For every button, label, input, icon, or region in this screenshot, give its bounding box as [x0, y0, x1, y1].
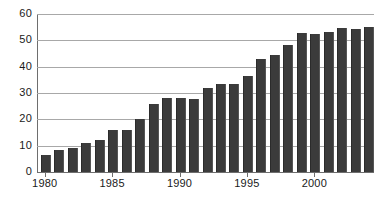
bar-1992 [203, 88, 213, 172]
bar-1987 [135, 119, 145, 172]
y-tick-label-20: 20 [8, 113, 32, 124]
bar-1986 [122, 130, 132, 172]
bar-1988 [149, 104, 159, 172]
y-tick-label-50: 50 [8, 34, 32, 45]
x-tick-label-1995: 1995 [234, 177, 259, 190]
x-tick-label-1990: 1990 [167, 177, 192, 190]
y-tick-label-60: 60 [8, 8, 32, 19]
bar-2001 [324, 32, 334, 172]
y-tick-label-40: 40 [8, 61, 32, 72]
bar-1985 [108, 130, 118, 172]
bar-1996 [256, 59, 266, 172]
bar-1994 [229, 84, 239, 172]
x-axis-labels: 19801985199019952000 [0, 177, 385, 197]
x-tick-label-2000: 2000 [302, 177, 327, 190]
bar-1999 [297, 33, 307, 172]
bar-1997 [270, 55, 280, 172]
bar-1980 [41, 155, 51, 172]
bar-1984 [95, 140, 105, 172]
bar-1989 [162, 98, 172, 172]
bar-2004 [364, 27, 374, 172]
y-tick-label-30: 30 [8, 87, 32, 98]
bar-chart: 6050403020100 19801985199019952000 [0, 0, 385, 203]
x-tick-label-1980: 1980 [32, 177, 57, 190]
bar-1993 [216, 84, 226, 172]
bars-layer [37, 14, 374, 172]
bar-1983 [81, 143, 91, 172]
bar-1995 [243, 76, 253, 172]
bar-1998 [283, 45, 293, 172]
bar-1981 [54, 150, 64, 172]
y-tick-label-10: 10 [8, 140, 32, 151]
x-tick-label-1985: 1985 [99, 177, 124, 190]
bar-1990 [176, 98, 186, 172]
bar-2002 [337, 28, 347, 172]
bar-1982 [68, 148, 78, 172]
bar-2000 [310, 34, 320, 172]
y-tick-label-0: 0 [8, 166, 32, 177]
bar-2003 [351, 29, 361, 172]
bar-1991 [189, 99, 199, 172]
